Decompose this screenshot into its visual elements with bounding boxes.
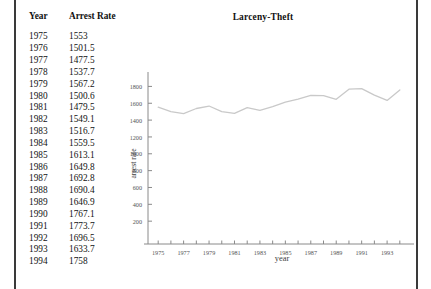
table-body: 1975155319761501.519771477.519781537.719… — [29, 32, 116, 269]
cell-arrest-rate: 1537.7 — [69, 68, 116, 80]
data-line — [158, 89, 400, 114]
x-axis-label: year — [148, 254, 416, 263]
table-row: 19941758 — [29, 257, 116, 269]
y-tick-label: 1800 — [130, 83, 142, 90]
table-row: 19851613.1 — [29, 151, 116, 163]
cell-year: 1991 — [29, 222, 69, 234]
page-border-left — [14, 0, 16, 289]
table: Year Arrest Rate 1975155319761501.519771… — [29, 12, 116, 269]
table-row: 19781537.7 — [29, 68, 116, 80]
column-header-year: Year — [29, 12, 69, 32]
cell-year: 1994 — [29, 257, 69, 269]
cell-year: 1984 — [29, 139, 69, 151]
table-head: Year Arrest Rate — [29, 12, 116, 32]
larceny-theft-chart: Larceny-Theft 20040060080010001200140016… — [110, 4, 416, 279]
cell-arrest-rate: 1567.2 — [69, 80, 116, 92]
table-header-row: Year Arrest Rate — [29, 12, 116, 32]
table-row: 19791567.2 — [29, 80, 116, 92]
cell-year: 1978 — [29, 68, 69, 80]
table-row: 19911773.7 — [29, 222, 116, 234]
cell-year: 1985 — [29, 151, 69, 163]
cell-arrest-rate: 1758 — [69, 257, 116, 269]
y-axis-label: arrest rate — [129, 134, 138, 194]
cell-arrest-rate: 1613.1 — [69, 151, 116, 163]
y-tick-label: 200 — [133, 218, 142, 225]
cell-year: 1979 — [29, 80, 69, 92]
plot-area: 2004006008001000120014001600180019751977… — [110, 4, 416, 279]
cell-arrest-rate: 1773.7 — [69, 222, 116, 234]
column-header-arrest-rate: Arrest Rate — [69, 12, 116, 32]
y-tick-label: 1600 — [130, 100, 142, 107]
y-tick-label: 1400 — [130, 117, 142, 124]
document-page: Year Arrest Rate 1975155319761501.519771… — [0, 0, 431, 289]
page-border-right — [416, 0, 418, 289]
table-row: 19841559.5 — [29, 139, 116, 151]
cell-arrest-rate: 1559.5 — [69, 139, 116, 151]
y-tick-label: 400 — [133, 201, 142, 208]
